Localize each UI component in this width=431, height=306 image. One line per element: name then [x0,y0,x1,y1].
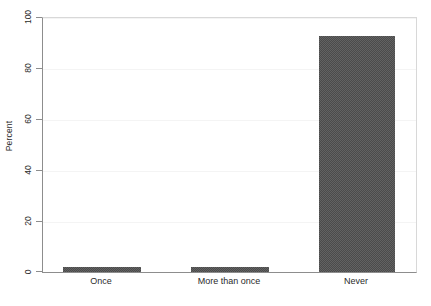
y-tick-label-60: 60 [20,112,36,126]
y-axis-title-text: Percent [4,120,14,151]
x-axis-tick-labels: Once More than once Never [42,274,417,292]
y-axis-title: Percent [0,0,18,271]
x-tick-label-once: Once [62,274,140,288]
y-tick-label-20: 20 [20,214,36,228]
x-tick-label-more-than-once: More than once [182,274,276,288]
bar-once[interactable] [63,267,141,272]
gridline-100 [43,18,416,19]
y-tick-label-40: 40 [20,163,36,177]
bar-chart-figure: Percent 100 80 60 40 20 0 [0,0,431,306]
y-axis-tick-labels: 100 80 60 40 20 0 [18,0,36,306]
bar-never[interactable] [319,36,395,272]
x-tick-label-never: Never [318,274,394,288]
bar-more-than-once[interactable] [191,267,269,272]
y-tick-label-100: 100 [20,10,36,24]
y-tick-label-0: 0 [20,265,36,279]
plot-inner [43,18,416,272]
plot-area [42,17,417,273]
y-tick-label-80: 80 [20,61,36,75]
